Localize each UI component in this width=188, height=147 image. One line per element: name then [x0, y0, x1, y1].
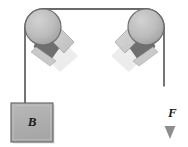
block-b-label: B	[0, 115, 64, 128]
right-pulley-wheel	[128, 9, 164, 45]
force-f-label: F	[168, 106, 177, 119]
left-pulley-wheel	[25, 9, 61, 45]
pulley-system-figure: B F	[0, 0, 188, 147]
